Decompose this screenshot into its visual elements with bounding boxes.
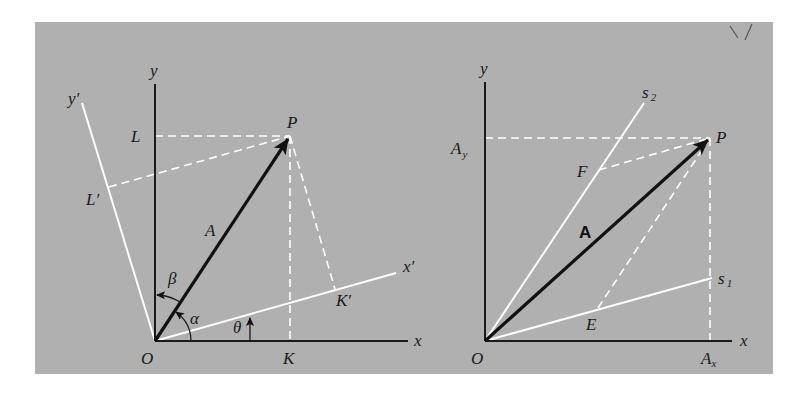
Ax-subscript: x [710, 357, 716, 369]
vector-components-figure: y y′ L L′ P A β α θ K′ x′ x O K y s2 Ay … [0, 0, 809, 395]
point-Lprime-label: L′ [85, 190, 99, 209]
angle-theta-label: θ [233, 318, 241, 337]
s2-main: s [642, 83, 649, 102]
angle-alpha-label: α [190, 309, 200, 328]
vector-A-label: A [204, 221, 216, 240]
y-axis-label: y [478, 59, 488, 78]
y-prime-axis-label: y′ [66, 89, 80, 108]
s2-subscript: 2 [651, 91, 657, 103]
s1-subscript: 1 [727, 277, 733, 289]
point-P-label: P [715, 128, 726, 147]
s1-main: s [718, 269, 725, 288]
angle-beta-label: β [167, 269, 177, 288]
point-K-label: K [282, 349, 296, 368]
point-P-label: P [286, 113, 297, 132]
point-E-label: E [585, 315, 597, 334]
vector-A-label: A [579, 223, 591, 242]
x-axis-label: x [413, 331, 422, 350]
y-axis-label: y [148, 61, 158, 80]
point-F-label: F [576, 162, 588, 181]
Ay-main: A [450, 139, 462, 158]
x-axis-label: x [739, 331, 748, 350]
point-Kprime-label: K′ [335, 291, 351, 310]
x-prime-axis-label: x′ [402, 257, 415, 276]
origin-label: O [471, 349, 483, 368]
point-L-label: L [130, 127, 140, 146]
Ay-subscript: y [461, 148, 467, 160]
figure-background [35, 22, 773, 374]
origin-label: O [141, 349, 153, 368]
Ax-main: A [700, 349, 712, 368]
